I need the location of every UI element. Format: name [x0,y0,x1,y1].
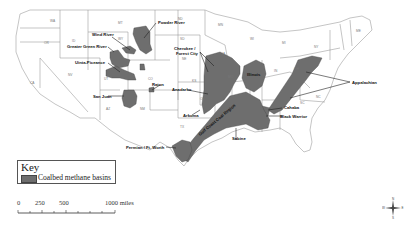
label-cherokee-2: Forest City [176,51,199,56]
legend-title: Key [21,161,39,173]
legend: Key Coalbed methane basins [17,160,116,184]
compass-rose-icon: N S W E [382,197,404,219]
svg-text:OR: OR [44,41,49,45]
scale-ruler [15,199,135,219]
label-powder-river: Powder River [158,20,185,25]
scale-bar: 0 250 500 1000 miles [15,199,135,219]
svg-text:SC: SC [300,101,305,105]
legend-swatch [21,175,37,183]
svg-text:SD: SD [180,37,185,41]
label-sabine: Sabine [232,136,246,141]
svg-text:NM: NM [140,107,145,111]
svg-text:KS: KS [192,79,196,83]
svg-text:MN: MN [218,23,224,27]
svg-text:MI: MI [282,41,286,45]
svg-text:N: N [392,197,394,201]
svg-text:UT: UT [104,77,108,81]
label-san-juan: San Juan [93,94,112,99]
label-black-warrior: Black Warrior [280,114,307,119]
svg-text:AZ: AZ [106,107,110,111]
label-anadarko: Anadarko [172,87,192,92]
label-greater-green-river: Greater Green River [67,44,107,49]
svg-text:W: W [382,206,385,210]
label-uinta-piceance: Uinta-Piceance [75,60,106,65]
label-illinois: Illinois [247,72,261,77]
label-arkoma: Arkoma [183,113,199,118]
label-raton: Raton [152,82,164,87]
svg-text:NE: NE [182,57,186,61]
svg-text:CO: CO [148,77,153,81]
svg-text:E: E [402,206,404,210]
svg-text:WA: WA [50,19,56,23]
label-permian-ft-worth: Permian / Ft. Worth [126,145,165,150]
svg-text:NC: NC [316,95,321,99]
label-wind-river: Wind River [92,32,114,37]
label-cahaba: Cahaba [284,105,300,110]
svg-text:WY: WY [118,37,124,41]
svg-text:OH: OH [294,67,299,71]
svg-text:S: S [392,216,394,219]
svg-text:WI: WI [250,37,254,41]
svg-text:MT: MT [118,21,123,25]
svg-text:MO: MO [228,75,234,79]
svg-text:ME: ME [356,29,361,33]
label-appalachian: Appalachian [352,80,377,85]
legend-item-label: Coalbed methane basins [38,173,111,182]
